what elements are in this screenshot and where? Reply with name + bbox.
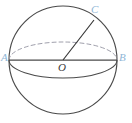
radius-line-oc	[63, 20, 94, 60]
sphere-diagram: A B C O	[0, 0, 132, 123]
equator-back-dashed-arc	[9, 42, 117, 60]
vertex-label-a: A	[1, 52, 8, 63]
sphere-figure-canvas	[0, 0, 132, 123]
center-label-o: O	[58, 62, 66, 73]
vertex-label-c: C	[91, 4, 98, 15]
vertex-label-b: B	[119, 52, 126, 63]
